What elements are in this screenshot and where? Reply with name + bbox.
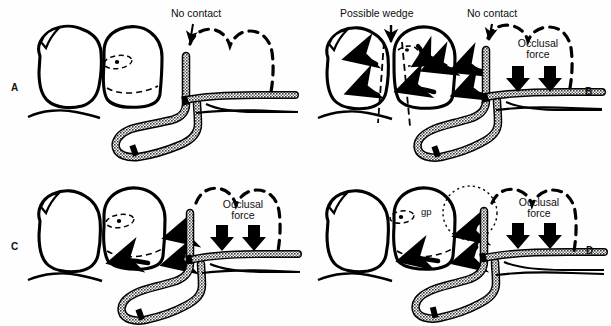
- panel-a: No contact A: [0, 0, 305, 163]
- prepared-molar-outline: [104, 188, 165, 269]
- lateral-arrow-far-upper: [454, 68, 484, 72]
- label-no-contact: No contact: [171, 8, 221, 19]
- occlusal-arrow-1: [506, 66, 530, 92]
- condense-arrow-1: [458, 219, 482, 235]
- access-dot: [117, 219, 121, 223]
- panel-b-drawing: [306, 0, 611, 163]
- occlusal-arrow-1: [210, 225, 234, 251]
- occlusal-arrow-1: [506, 223, 530, 249]
- matrix-band-arm-fill: [186, 95, 295, 100]
- label-occlusal-force: Occlusal force: [505, 38, 571, 59]
- occlusal-force-arrows: [506, 223, 562, 249]
- panel-caption-c: C: [11, 241, 19, 252]
- gingiva-right: [496, 272, 604, 275]
- occlusal-force-line-2: force: [210, 210, 276, 221]
- condense-arrow-3: [402, 259, 438, 261]
- occlusal-arrow-2: [242, 225, 266, 251]
- label-no-contact: No contact: [467, 8, 517, 19]
- panel-caption-d: D: [586, 245, 594, 256]
- gingiva-left: [28, 110, 100, 118]
- panel-caption-a: A: [11, 82, 19, 93]
- prepared-molar-outline: [103, 27, 162, 108]
- condense-arrow-2: [166, 249, 186, 264]
- gingiva-left: [28, 273, 102, 281]
- occlusal-force-line-2: force: [506, 208, 572, 219]
- access-dot: [115, 60, 119, 64]
- no-contact-pointer-arrow: [489, 24, 492, 40]
- band-retainer-line: [504, 262, 604, 270]
- occlusal-force-line-2: force: [505, 49, 571, 60]
- occlusal-arrow-2: [538, 223, 562, 249]
- occlusal-force-arrows: [210, 225, 266, 251]
- access-dot: [405, 48, 409, 52]
- label-possible-wedge: Possible wedge: [340, 8, 414, 19]
- panel-b: Possible wedge No contact Occlusal force…: [306, 0, 611, 163]
- label-occlusal-force: Occlusal force: [210, 199, 276, 220]
- label-gp: gp: [421, 207, 432, 217]
- panel-d-drawing: [306, 163, 611, 326]
- gingiva-left: [318, 273, 392, 281]
- panel-c-drawing: [0, 163, 305, 326]
- panel-d: gp Occlusal force D: [306, 163, 611, 326]
- dental-figure: No contact A: [0, 0, 611, 326]
- gingiva-left: [318, 111, 392, 119]
- condense-arrow-2: [456, 247, 476, 262]
- panel-c: Occlusal force C: [0, 163, 305, 326]
- access-dot: [399, 215, 403, 219]
- label-occlusal-force: Occlusal force: [506, 197, 572, 218]
- condense-arrow-3: [112, 261, 148, 263]
- panel-caption-b: B: [585, 86, 593, 97]
- adjacent-tooth-dashed: [190, 29, 273, 92]
- panel-a-drawing: [0, 0, 305, 163]
